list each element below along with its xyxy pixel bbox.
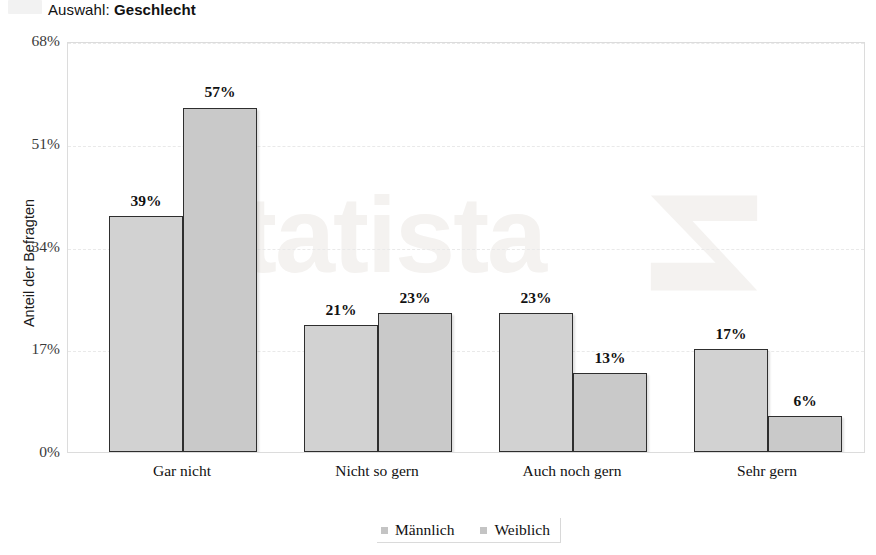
bar-maennlich[interactable]	[694, 349, 768, 452]
bar-maennlich[interactable]	[109, 216, 183, 452]
x-axis-tick-label: Sehr gern	[673, 462, 861, 480]
chart-title-emphasis: Geschlecht	[114, 1, 196, 18]
bar-weiblich[interactable]	[573, 373, 647, 452]
bar-value-label: 23%	[378, 289, 452, 307]
legend-swatch-icon	[480, 527, 487, 534]
bar-maennlich[interactable]	[304, 325, 378, 452]
legend-label: Weiblich	[494, 521, 550, 539]
legend-item-weiblich[interactable]: Weiblich	[480, 521, 550, 539]
gridline	[68, 43, 864, 44]
chart-legend: Männlich Weiblich	[377, 518, 561, 543]
bar-value-label: 23%	[499, 289, 573, 307]
chart-figure: Auswahl: Geschlecht Anteil der Befragten…	[0, 0, 876, 555]
chart-title: Auswahl: Geschlecht	[48, 1, 196, 18]
x-axis-tick-label: Gar nicht	[88, 462, 276, 480]
legend-swatch-icon	[381, 527, 388, 534]
plot-area: statista 39%57%21%23%23%13%17%6%	[67, 42, 865, 453]
bar-value-label: 21%	[304, 301, 378, 319]
y-axis-tick-label: 51%	[10, 135, 60, 153]
bar-value-label: 57%	[183, 83, 257, 101]
bar-weiblich[interactable]	[768, 416, 842, 452]
bar-weiblich[interactable]	[183, 108, 257, 453]
bar-value-label: 17%	[694, 325, 768, 343]
x-axis-tick-label: Nicht so gern	[283, 462, 471, 480]
y-axis-tick-label: 68%	[10, 32, 60, 50]
statista-logo-mark-icon	[645, 191, 763, 295]
bar-value-label: 13%	[573, 349, 647, 367]
y-axis-tick-label: 0%	[10, 443, 60, 461]
x-axis-tick-label: Auch noch gern	[478, 462, 666, 480]
y-axis-tick-label: 34%	[10, 238, 60, 256]
legend-item-maennlich[interactable]: Männlich	[381, 521, 454, 539]
bar-maennlich[interactable]	[499, 313, 573, 452]
bar-value-label: 6%	[768, 392, 842, 410]
bar-weiblich[interactable]	[378, 313, 452, 452]
y-axis-tick-label: 17%	[10, 340, 60, 358]
scan-artifact	[8, 0, 42, 14]
chart-title-prefix: Auswahl:	[48, 1, 114, 18]
legend-label: Männlich	[395, 521, 454, 539]
bar-value-label: 39%	[109, 192, 183, 210]
